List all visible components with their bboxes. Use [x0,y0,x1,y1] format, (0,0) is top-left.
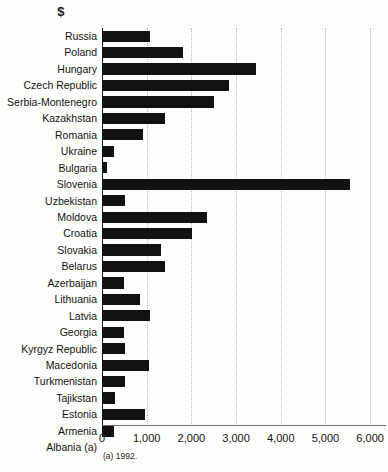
category-label: Hungary [0,61,97,77]
category-label: Lithuania [0,291,97,307]
bar [102,179,350,190]
x-tick-label: 2,000 [178,430,206,446]
x-tick-label: 3,000 [222,430,250,446]
x-tick-label: 4,000 [267,430,295,446]
category-label: Ukraine [0,143,97,159]
bar-row: Turkmenistan [102,373,388,389]
chart-unit-header: $ [0,4,122,19]
category-label: Croatia [0,225,97,241]
bar [102,96,214,107]
bar-row: Bulgaria [102,160,388,176]
bar [102,244,161,255]
category-label: Slovakia [0,242,97,258]
bar-row: Moldova [102,209,388,225]
category-label: Macedonia [0,357,97,373]
bar-row: Estonia [102,406,388,422]
bar-row: Serbia-Montenegro [102,94,388,110]
bar-row: Croatia [102,225,388,241]
bar [102,261,165,272]
x-axis-tick-labels: 01,0002,0003,0004,0005,0006,000 [0,430,388,448]
category-label: Kazakhstan [0,110,97,126]
bar [102,376,125,387]
category-label: Uzbekistan [0,193,97,209]
category-label: Tajikstan [0,390,97,406]
category-label: Latvia [0,308,97,324]
bar [102,327,124,338]
bar [102,277,124,288]
chart-footnote: (a) 1992. [103,450,137,462]
bar-row: Slovakia [102,242,388,258]
bar-row: Tajikstan [102,390,388,406]
bar [102,80,229,91]
bar [102,392,115,403]
x-tick-label: 5,000 [312,430,340,446]
bar [102,310,150,321]
bar-row: Ukraine [102,143,388,159]
bar-row: Latvia [102,308,388,324]
bar [102,228,192,239]
bar [102,31,150,42]
bar-row: Uzbekistan [102,193,388,209]
category-label: Russia [0,28,97,44]
bar-row: Poland [102,44,388,60]
bar [102,63,256,74]
bar [102,146,114,157]
bar [102,294,140,305]
plot-area: RussiaPolandHungaryCzech RepublicSerbia-… [102,28,388,426]
bar-row: Russia [102,28,388,44]
bar [102,113,165,124]
bar [102,129,143,140]
bar [102,212,207,223]
bar-row: Romania [102,127,388,143]
category-label: Moldova [0,209,97,225]
x-tick-label: 0 [99,430,105,446]
bar [102,47,183,58]
bar [102,343,125,354]
category-label: Azerbaijan [0,275,97,291]
category-label: Slovenia [0,176,97,192]
x-axis-baseline [102,425,386,426]
bar-row: Belarus [102,258,388,274]
category-label: Turkmenistan [0,373,97,389]
bar-row: Kazakhstan [102,110,388,126]
bar-chart-figure: $ RussiaPolandHungaryCzech RepublicSerbi… [0,0,388,472]
bar-row: Czech Republic [102,77,388,93]
bar [102,409,145,420]
bar-row: Georgia [102,324,388,340]
bar-row: Lithuania [102,291,388,307]
bar-row: Macedonia [102,357,388,373]
category-label: Georgia [0,324,97,340]
category-label: Czech Republic [0,77,97,93]
category-label: Bulgaria [0,160,97,176]
bar [102,162,107,173]
category-label: Kyrgyz Republic [0,341,97,357]
bar-row: Kyrgyz Republic [102,341,388,357]
x-tick-label: 6,000 [356,430,384,446]
category-label: Estonia [0,406,97,422]
bar [102,195,125,206]
x-tick-label: 1,000 [133,430,161,446]
category-label: Romania [0,127,97,143]
category-label: Poland [0,44,97,60]
bar-row: Slovenia [102,176,388,192]
bar-row: Hungary [102,61,388,77]
bar [102,360,149,371]
category-label: Serbia-Montenegro [0,94,97,110]
bar-row: Azerbaijan [102,275,388,291]
category-label: Belarus [0,258,97,274]
